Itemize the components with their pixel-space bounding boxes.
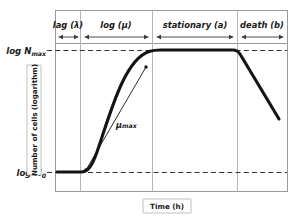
y-tick-log-nmax-sub: max xyxy=(31,50,47,57)
growth-curve-figure: lag (λ) log (μ) stationary (a) death (b) xyxy=(0,0,304,221)
phase-span-arrow-lag xyxy=(58,35,79,40)
phase-span-arrow-death xyxy=(241,35,284,40)
mu-max-main: μ xyxy=(115,120,122,130)
phase-label-stationary: stationary (a) xyxy=(163,20,228,30)
mu-max-annotation-label: μmax xyxy=(115,120,138,130)
tangent-endpoint-dot-lower xyxy=(84,168,87,171)
y-tick-log-nmax-main: log N xyxy=(6,46,32,56)
phase-label-lag: lag (λ) xyxy=(53,20,84,30)
y-axis-title: Number of cells (logarithm) xyxy=(30,64,39,176)
x-axis-title: Time (h) xyxy=(150,202,184,211)
phase-label-log: log (μ) xyxy=(100,20,132,30)
phase-span-arrow-log xyxy=(84,35,149,40)
tangent-endpoint-dot-upper xyxy=(144,65,147,68)
y-axis-title-group: Number of cells (logarithm) xyxy=(27,64,41,176)
mu-max-sub: max xyxy=(122,122,138,129)
phase-label-death: death (b) xyxy=(240,20,284,30)
phase-span-arrow-stationary xyxy=(156,35,234,40)
y-tick-label-log-nmax: log Nmax xyxy=(6,46,47,57)
growth-curve-path xyxy=(57,50,279,172)
y-tick-log-n0-sub: 0 xyxy=(42,172,47,179)
bacterial-growth-chart: lag (λ) log (μ) stationary (a) death (b) xyxy=(0,0,304,221)
mu-max-tangent xyxy=(84,65,147,171)
x-axis-title-group: Time (h) xyxy=(143,199,191,213)
